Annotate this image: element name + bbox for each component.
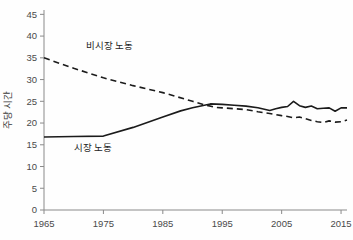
series-group [44, 58, 347, 137]
y-tick-label: 15 [26, 139, 37, 150]
series-line-2 [44, 58, 347, 123]
x-tick-label: 1985 [152, 218, 173, 229]
series-line-1 [44, 101, 347, 137]
x-axis-tick-group: 196519751985199520052015 [33, 210, 351, 229]
y-tick-label: 30 [26, 74, 37, 85]
y-tick-label: 45 [26, 9, 37, 20]
y-tick-label: 40 [26, 30, 37, 41]
x-tick-label: 1965 [33, 218, 54, 229]
x-tick-label: 2005 [271, 218, 292, 229]
y-tick-label: 5 [32, 183, 37, 194]
chart-container: 051015202530354045 196519751985199520052… [0, 0, 353, 240]
y-tick-label: 25 [26, 96, 37, 107]
y-tick-label: 20 [26, 117, 37, 128]
y-tick-label: 0 [32, 204, 37, 215]
series-annotation-1: 비시장 노동 [86, 40, 134, 51]
y-tick-label: 35 [26, 52, 37, 63]
x-tick-label: 2015 [330, 218, 351, 229]
series-annotation-2: 시장 노동 [74, 142, 113, 153]
y-tick-label: 10 [26, 161, 37, 172]
x-tick-label: 1975 [93, 218, 114, 229]
y-axis-tick-group: 051015202530354045 [26, 9, 44, 216]
y-axis-title: 주당 시간 [2, 91, 13, 130]
line-chart: 051015202530354045 196519751985199520052… [0, 0, 353, 240]
x-tick-label: 1995 [212, 218, 233, 229]
